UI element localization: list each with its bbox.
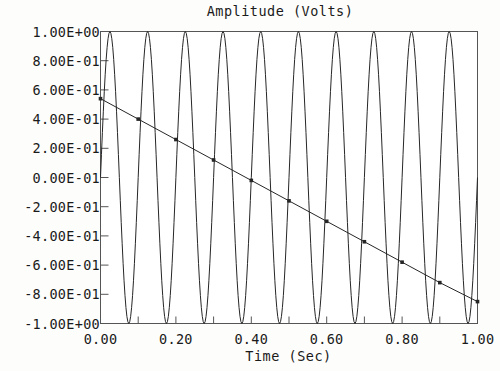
- chart-plot-area: [0, 0, 500, 371]
- chart-screenshot: Amplitude (Volts) 1.00E+008.00E-016.00E-…: [0, 0, 500, 371]
